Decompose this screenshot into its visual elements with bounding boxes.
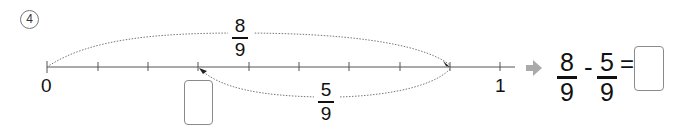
start-label: 0: [41, 75, 52, 97]
denominator: 9: [600, 80, 614, 105]
lower-arc-arrowhead: [199, 68, 207, 74]
equation-left-fraction: 8 9: [557, 50, 577, 105]
denominator: 9: [321, 104, 332, 124]
minus-sign: -: [584, 52, 593, 83]
numerator: 5: [600, 50, 614, 75]
denominator: 9: [235, 40, 246, 60]
numerator: 8: [235, 16, 246, 36]
equation-right-fraction: 5 9: [597, 50, 617, 105]
number-line-answer-box[interactable]: [184, 80, 213, 125]
numerator: 8: [560, 50, 574, 75]
lower-arc-fraction: 5 9: [318, 80, 334, 124]
denominator: 9: [560, 80, 574, 105]
upper-arc-fraction: 8 9: [232, 16, 248, 60]
end-label: 1: [495, 75, 506, 97]
equation-answer-box[interactable]: [634, 46, 664, 91]
equals-sign: =: [620, 50, 634, 78]
right-arrow-icon: [526, 60, 542, 76]
numerator: 5: [321, 80, 332, 100]
